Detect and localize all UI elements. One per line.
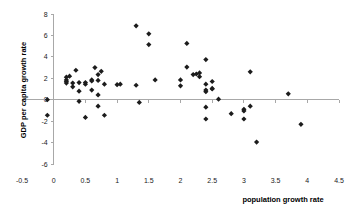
data-point	[241, 116, 246, 121]
y-tick-label: 6	[44, 32, 48, 39]
y-tick-label: -6	[41, 161, 47, 168]
data-point	[95, 72, 100, 77]
y-tick-label: 4	[44, 53, 48, 60]
data-point	[92, 65, 97, 70]
data-point	[254, 139, 259, 144]
x-tick-label: 0	[52, 177, 56, 184]
data-point	[95, 78, 100, 83]
data-point	[73, 68, 78, 73]
x-axis-ticks: -0.500.511.522.533.544.5	[16, 100, 344, 184]
data-point	[146, 42, 151, 47]
data-point	[298, 122, 303, 127]
data-point	[95, 104, 100, 109]
y-axis-title: GDP per capita growth rate	[19, 42, 28, 139]
data-point	[248, 104, 253, 109]
x-tick-label: 1	[115, 177, 119, 184]
data-point	[203, 105, 208, 110]
data-point	[216, 97, 221, 102]
data-point	[70, 81, 75, 86]
data-points	[45, 23, 304, 144]
data-point	[248, 69, 253, 74]
y-tick-label: 2	[44, 75, 48, 82]
data-point	[184, 64, 189, 69]
x-tick-label: 1.5	[144, 177, 154, 184]
x-tick-label: 3	[242, 177, 246, 184]
data-point	[76, 89, 81, 94]
y-tick-label: -2	[41, 118, 47, 125]
data-point	[118, 82, 123, 87]
x-tick-label: 4	[305, 177, 309, 184]
data-point	[203, 116, 208, 121]
data-point	[203, 57, 208, 62]
data-point	[286, 91, 291, 96]
data-point	[153, 77, 158, 82]
data-point	[178, 77, 183, 82]
data-point	[89, 87, 94, 92]
data-point	[134, 23, 139, 28]
data-point	[184, 41, 189, 46]
data-point	[178, 83, 183, 88]
data-point	[95, 92, 100, 97]
data-point	[229, 111, 234, 116]
scatter-chart: -0.500.511.522.533.544.5 86420-2-4-6 pop…	[0, 0, 347, 217]
data-point	[102, 113, 107, 118]
x-tick-label: 2.5	[207, 177, 217, 184]
data-point	[76, 80, 81, 85]
data-point	[99, 69, 104, 74]
x-tick-label: 3.5	[271, 177, 281, 184]
plot-area: -0.500.511.522.533.544.5 86420-2-4-6 pop…	[0, 0, 347, 217]
x-axis-title: population growth rate	[242, 195, 323, 204]
data-point	[210, 86, 215, 91]
x-tick-label: 2	[179, 177, 183, 184]
x-tick-label: -0.5	[16, 177, 28, 184]
data-point	[134, 83, 139, 88]
data-point	[102, 82, 107, 87]
y-axis-ticks: 86420-2-4-6	[41, 11, 53, 168]
y-tick-label: 8	[44, 11, 48, 18]
x-tick-label: 0.5	[81, 177, 91, 184]
data-point	[203, 82, 208, 87]
data-point	[83, 115, 88, 120]
data-point	[146, 31, 151, 36]
data-point	[137, 100, 142, 105]
y-tick-label: -4	[41, 139, 47, 146]
data-point	[210, 79, 215, 84]
x-tick-label: 4.5	[334, 177, 344, 184]
